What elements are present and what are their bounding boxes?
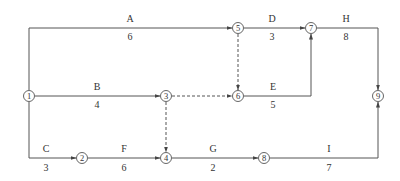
node-number: 3 [164, 91, 168, 101]
activity-d-name: D [268, 13, 275, 24]
activity-i: I 7 [270, 102, 378, 173]
activity-h: H 8 [317, 13, 378, 90]
activity-e: E 5 [244, 34, 311, 110]
node-1: 1 [24, 91, 35, 102]
activity-b: B 4 [35, 81, 160, 110]
activity-i-duration: 7 [327, 162, 332, 173]
activity-i-name: I [327, 143, 330, 154]
node-7: 7 [306, 23, 317, 34]
activity-f: F 6 [88, 143, 160, 173]
activity-a-name: A [126, 13, 134, 24]
activity-f-duration: 6 [122, 162, 127, 173]
node-6: 6 [233, 91, 244, 102]
network-diagram: A 6 B 4 C 3 D 3 E 5 F 6 G 2 H 8 [0, 0, 400, 181]
activity-b-name: B [94, 81, 101, 92]
activity-c-duration: 3 [44, 162, 49, 173]
activity-h-duration: 8 [344, 31, 349, 42]
activity-c: C 3 [29, 102, 76, 173]
activity-e-name: E [270, 81, 276, 92]
activity-b-duration: 4 [95, 99, 100, 110]
activity-d-duration: 3 [270, 31, 275, 42]
node-number: 7 [309, 23, 313, 33]
activity-g-name: G [209, 143, 216, 154]
activity-a: A 6 [29, 13, 232, 90]
network-diagram-canvas: A 6 B 4 C 3 D 3 E 5 F 6 G 2 H 8 [0, 0, 400, 181]
node-2: 2 [77, 153, 88, 164]
arrow-e [244, 34, 311, 96]
activity-h-name: H [342, 13, 349, 24]
node-number: 5 [236, 23, 240, 33]
activity-e-duration: 5 [271, 99, 276, 110]
node-number: 8 [262, 153, 266, 163]
activity-g: G 2 [172, 143, 258, 173]
activity-f-name: F [121, 143, 127, 154]
node-5: 5 [233, 23, 244, 34]
node-number: 9 [376, 91, 380, 101]
node-8: 8 [259, 153, 270, 164]
activity-a-duration: 6 [128, 31, 133, 42]
activity-g-duration: 2 [211, 162, 216, 173]
arrow-i [270, 102, 378, 158]
node-number: 1 [27, 91, 31, 101]
arrow-c [29, 102, 76, 158]
node-3: 3 [161, 91, 172, 102]
activity-d: D 3 [244, 13, 305, 42]
node-number: 2 [80, 153, 84, 163]
node-9: 9 [373, 91, 384, 102]
node-number: 6 [236, 91, 240, 101]
node-4: 4 [161, 153, 172, 164]
activity-c-name: C [43, 143, 50, 154]
